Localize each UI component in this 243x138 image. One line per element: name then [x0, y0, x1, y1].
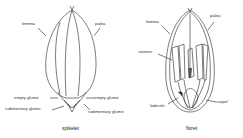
- floret-label-stamen: stamen: [138, 50, 152, 54]
- spikelet-caption: spikelet: [62, 126, 79, 131]
- spikelet-label-empty-glume-left: empty glume: [14, 96, 39, 100]
- spikelet-label-lemma: lemma: [22, 22, 35, 26]
- spikelet-label-empty-glume-right: empty glume: [94, 96, 119, 100]
- floret-drawing: [0, 0, 243, 138]
- spikelet-label-rudimentary-glume-left: rudimentary glume: [5, 107, 41, 111]
- floret-label-lemma: lemma: [146, 20, 159, 24]
- floret-caption: floret: [186, 126, 197, 131]
- spikelet-label-palea: palea: [95, 22, 106, 26]
- floret-label-palea: palea: [210, 14, 221, 18]
- floret-label-lodicule: lodicule: [150, 104, 165, 108]
- spikelet-label-rudimentary-glume-right: rudimentary glume: [88, 110, 124, 114]
- floret-label-carpel: carpel: [216, 100, 228, 104]
